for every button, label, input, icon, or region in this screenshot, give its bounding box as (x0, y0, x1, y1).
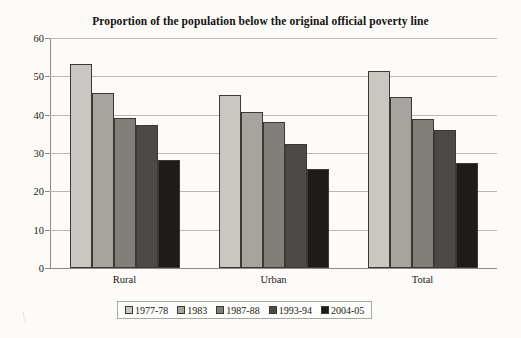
bar (285, 144, 307, 268)
y-axis-tick-mark (45, 230, 50, 231)
y-axis-tick-label: 40 (10, 109, 44, 120)
legend-label: 1977-78 (135, 305, 168, 316)
gridline (50, 38, 497, 39)
bar (412, 119, 434, 268)
bar (114, 118, 136, 268)
bar (368, 71, 390, 268)
x-axis-category-label: Total (412, 274, 433, 285)
plot-area (50, 38, 497, 268)
legend-swatch-icon (269, 306, 277, 314)
gridline (50, 268, 497, 269)
y-axis-tick-mark (45, 115, 50, 116)
chart-page: Proportion of the population below the o… (0, 0, 521, 338)
y-axis-tick-label: 60 (10, 33, 44, 44)
y-axis-tick-mark (45, 153, 50, 154)
bar (136, 125, 158, 268)
legend-item[interactable]: 1983 (177, 305, 207, 316)
legend-item[interactable]: 2004-05 (321, 305, 364, 316)
bar (456, 163, 478, 268)
legend-item[interactable]: 1987-88 (216, 305, 259, 316)
bar (390, 97, 412, 268)
legend-label: 1993-94 (279, 305, 312, 316)
y-axis-tick-label: 20 (10, 186, 44, 197)
legend-label: 1987-88 (226, 305, 259, 316)
legend-label: 2004-05 (331, 305, 364, 316)
y-axis-tick-mark (45, 38, 50, 39)
legend-item[interactable]: 1977-78 (125, 305, 168, 316)
chart-title: Proportion of the population below the o… (0, 15, 521, 27)
legend-swatch-icon (216, 306, 224, 314)
bar (92, 93, 114, 268)
x-axis-category-label: Rural (113, 274, 136, 285)
x-axis-category-label: Urban (260, 274, 286, 285)
y-axis-tick-label: 0 (10, 263, 44, 274)
bar (307, 169, 329, 268)
y-axis-tick-label: 50 (10, 71, 44, 82)
legend-swatch-icon (125, 306, 133, 314)
bar (263, 122, 285, 268)
bar (219, 95, 241, 268)
gridline (50, 76, 497, 77)
y-axis-tick-label: 10 (10, 224, 44, 235)
y-axis-tick-mark (45, 268, 50, 269)
y-axis-tick-mark (45, 191, 50, 192)
gridline (50, 115, 497, 116)
y-axis-tick-mark (45, 76, 50, 77)
y-axis-tick-label: 30 (10, 148, 44, 159)
legend-swatch-icon (321, 306, 329, 314)
legend-label: 1983 (187, 305, 207, 316)
bar (434, 130, 456, 268)
bar (70, 64, 92, 268)
legend-item[interactable]: 1993-94 (269, 305, 312, 316)
bar (158, 160, 180, 268)
y-axis: 0102030405060 (0, 0, 44, 338)
chart-legend: 1977-7819831987-881993-942004-05 (117, 301, 372, 319)
bar (241, 112, 263, 268)
legend-swatch-icon (177, 306, 185, 314)
